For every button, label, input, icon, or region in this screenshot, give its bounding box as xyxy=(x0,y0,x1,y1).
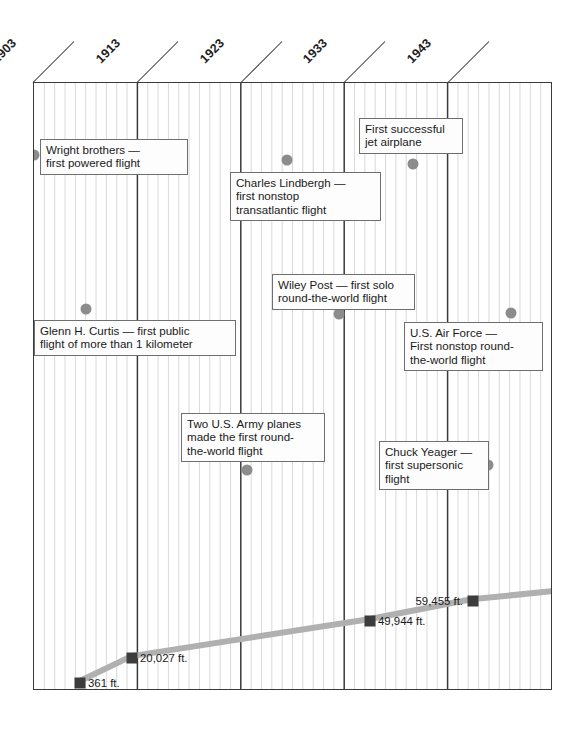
altitude-marker-1 xyxy=(127,653,138,664)
altitude-marker-2 xyxy=(365,616,376,627)
callout-chuck-yeager: Chuck Yeager — first supersonic flight xyxy=(379,441,489,490)
altitude-marker-3 xyxy=(468,596,479,607)
event-dot-two-us-army-planes xyxy=(242,465,253,476)
year-tick-ray xyxy=(33,41,75,83)
callout-wiley-post: Wiley Post — first solo round-the-world … xyxy=(272,274,415,310)
year-label-1923: 1923 xyxy=(197,36,227,66)
year-tick-ray xyxy=(136,41,178,83)
year-tick-ray xyxy=(344,41,386,83)
altitude-label-3: 59,455 ft. xyxy=(416,595,464,607)
event-dot-glenn-curtis xyxy=(81,304,92,315)
year-label-1943: 1943 xyxy=(404,36,434,66)
event-dot-charles-lindbergh xyxy=(282,155,293,166)
year-tick-ray xyxy=(240,41,282,83)
altitude-label-2: 49,944 ft. xyxy=(378,615,426,627)
callout-wright-brothers: Wright brothers — first powered flight xyxy=(40,139,188,175)
year-label-1913: 1913 xyxy=(93,36,123,66)
callout-charles-lindbergh: Charles Lindbergh — first nonstop transa… xyxy=(230,172,381,221)
callout-first-jet-airplane: First successful jet airplane xyxy=(359,118,463,154)
event-dot-first-jet-airplane xyxy=(408,159,419,170)
altitude-marker-0 xyxy=(75,678,86,689)
year-label-1903: 1903 xyxy=(0,36,19,66)
flight-timeline-chart: 19031913192319331943 361 ft.20,027 ft.49… xyxy=(0,0,572,734)
callout-two-us-army-planes: Two U.S. Army planes made the first roun… xyxy=(181,413,325,462)
callout-us-air-force: U.S. Air Force — First nonstop round- th… xyxy=(404,322,543,371)
altitude-label-0: 361 ft. xyxy=(88,677,120,689)
event-dot-us-air-force xyxy=(506,308,517,319)
event-dot-wiley-post xyxy=(334,309,345,320)
year-label-1933: 1933 xyxy=(300,36,330,66)
altitude-label-1: 20,027 ft. xyxy=(140,652,188,664)
year-tick-ray xyxy=(448,41,490,83)
callout-glenn-curtis: Glenn H. Curtis — first public flight of… xyxy=(34,320,236,356)
